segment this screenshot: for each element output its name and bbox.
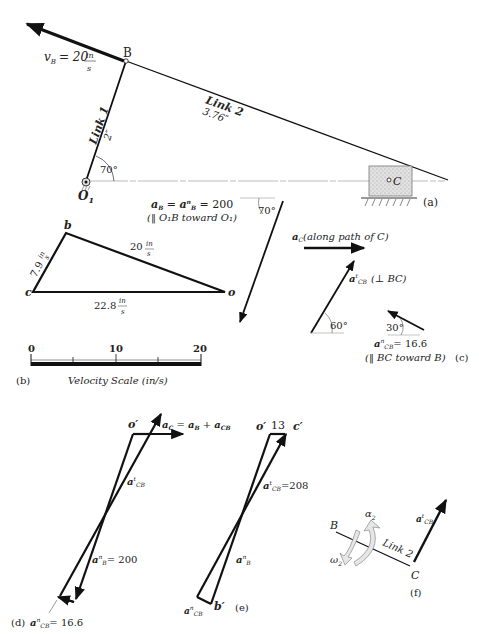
panel-c-label: (c): [455, 352, 469, 363]
ab-angle-label: 70°: [258, 205, 276, 216]
velocity-scale-bar: 0 10 20: [28, 343, 207, 366]
scale-tick-0: 0: [28, 343, 35, 354]
panel-a-mechanism: vB= 20 in s Link 2 3.76″ Link 1 2″ B 70°…: [27, 24, 448, 209]
velocity-scale-title: Velocity Scale (in/s): [68, 375, 168, 386]
joint-c: [387, 178, 391, 182]
point-o1-label: O1: [78, 189, 94, 205]
panel-f-label: (f): [410, 587, 422, 598]
scale-tick-10: 10: [109, 343, 123, 354]
atcb-vector-f: [414, 500, 446, 562]
vertex-b-label: b: [64, 219, 72, 232]
ab-vector: [240, 201, 283, 322]
panel-f-link2-angular: B C Link 2 ω2 α2 atCB (f): [329, 500, 446, 598]
panel-a-label: (a): [423, 196, 438, 209]
svg-text:in: in: [146, 240, 153, 248]
ancb-vector-e: [197, 597, 211, 604]
ancb-angle-label: 30°: [386, 322, 404, 333]
panel-b-velocity-polygon: b c o 7.9 in s 20 in s 22.8 in s 0 10 20…: [16, 219, 235, 386]
vertex-c-label: c: [25, 286, 32, 299]
c-prime-label-e: c′: [293, 420, 303, 433]
ground-hatch: [365, 199, 410, 206]
svg-text:s: s: [147, 250, 151, 258]
anb-label-e: anB: [236, 553, 251, 566]
ab-equation: aB = anB = 200: [151, 198, 233, 211]
b-prime-label-e: b′: [214, 600, 225, 613]
svg-text:in: in: [119, 297, 126, 305]
atcb-label-f: atCB: [416, 512, 434, 525]
scale-tick-20: 20: [193, 343, 207, 354]
alpha2-arrow-icon: [354, 520, 380, 566]
vb-label: vB= 20: [44, 50, 88, 66]
ancb-label-e: anCB: [184, 604, 203, 617]
atcb-label-d: atCB: [127, 475, 145, 488]
atcb-label: atCB(⊥ BC): [349, 272, 407, 285]
panel-b-label: (b): [16, 375, 30, 386]
atcb-vector-e: [197, 434, 286, 597]
side-oc-value: 22.8: [94, 300, 116, 311]
ac-label: aC(along path of C): [292, 231, 389, 243]
vertex-o-label: o: [228, 286, 235, 299]
o-prime-label-d: o′: [128, 418, 138, 431]
oc-value-e: 13: [271, 419, 285, 432]
velocity-triangle: [33, 233, 225, 292]
svg-text:s: s: [43, 254, 52, 261]
panel-d-label: (d): [11, 617, 25, 628]
ancb-direction-note: (‖ BC toward B): [365, 352, 446, 364]
link2-label-f: Link 2: [380, 536, 415, 559]
ancb-equation: anCB= 16.6: [374, 337, 427, 350]
point-c-label: C: [393, 175, 402, 188]
atcb-label-e: atCB=208: [263, 479, 308, 492]
ab-direction-note: (‖ O₁B toward O₁): [147, 212, 237, 224]
atcb-vector-d: [60, 414, 161, 596]
omega2-label: ω2: [330, 554, 342, 567]
angle-70-label: 70°: [100, 164, 118, 175]
o-prime-label-e: o′: [256, 420, 266, 433]
anb-label-d: anB= 200: [92, 553, 137, 566]
alpha2-label: α2: [365, 508, 376, 521]
ancb-equation-d: anCB= 16.6: [30, 616, 83, 629]
link-2: [126, 61, 448, 180]
svg-text:s: s: [121, 308, 125, 316]
link1-length: 2″: [101, 128, 115, 142]
side-ob-value: 20: [130, 241, 143, 252]
panel-e-acceleration-polygon: o′ 13 c′ atCB=208 anB anCB b′ (e): [184, 419, 308, 617]
point-b-label-f: B: [329, 519, 338, 532]
vb-unit-num: in: [86, 51, 94, 60]
atcb-angle-label: 60°: [330, 320, 348, 331]
vb-unit-den: s: [87, 64, 91, 73]
panel-e-label: (e): [235, 602, 249, 613]
ac-equation-d: aC = aB + aCB: [162, 419, 231, 431]
diagram-canvas: vB= 20 in s Link 2 3.76″ Link 1 2″ B 70°…: [0, 0, 479, 634]
point-c-label-f: C: [411, 569, 420, 582]
point-b-label: B: [123, 46, 132, 60]
